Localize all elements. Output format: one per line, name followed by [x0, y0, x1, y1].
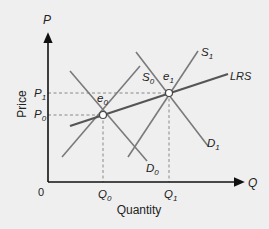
x-axis-title: Quantity [117, 203, 162, 217]
equilibrium-label-e1: e1 [163, 70, 174, 85]
quantity-label-q0: Q0 [98, 188, 112, 203]
demand-curve-d0 [70, 71, 147, 161]
equilibrium-point-e0 [100, 112, 107, 119]
demand-label-d1: D1 [207, 137, 220, 152]
supply-demand-diagram: P Q 0 Price Quantity P1 P0 Q0 Q1 e0 e1 S… [0, 0, 269, 229]
price-label-p0: P0 [34, 108, 47, 123]
lrs-label: LRS [230, 70, 252, 82]
x-axis-symbol: Q [248, 176, 257, 190]
origin-label: 0 [38, 186, 44, 198]
supply-label-s1: S1 [201, 46, 213, 61]
price-label-p1: P1 [34, 87, 46, 102]
demand-label-d0: D0 [146, 162, 159, 177]
quantity-label-q1: Q1 [164, 188, 177, 203]
y-axis-symbol: P [43, 13, 51, 27]
equilibrium-point-e1 [166, 90, 173, 97]
demand-curve-d1 [136, 52, 208, 146]
y-axis-title: Price [15, 90, 29, 118]
